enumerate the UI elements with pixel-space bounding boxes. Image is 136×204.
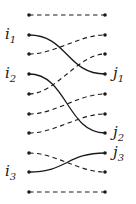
left-node-3 bbox=[27, 72, 31, 76]
left-node-9 bbox=[27, 190, 31, 194]
left-label-i2: i2 bbox=[5, 64, 16, 84]
right-node-9 bbox=[103, 190, 107, 194]
left-node-0 bbox=[27, 13, 31, 17]
right-label-j2: j2 bbox=[110, 123, 124, 143]
left-node-6 bbox=[27, 131, 31, 135]
matching-diagram: i1i2i3j1j2j3 bbox=[0, 0, 136, 204]
solid-edge-1 bbox=[29, 35, 105, 74]
solid-edge-3 bbox=[29, 74, 105, 133]
left-node-1 bbox=[27, 33, 31, 37]
solid-edge-8 bbox=[29, 153, 105, 172]
right-node-6 bbox=[103, 131, 107, 135]
right-label-j3: j3 bbox=[110, 143, 124, 163]
dashed-edge-6 bbox=[29, 114, 105, 133]
right-node-8 bbox=[103, 170, 107, 174]
right-node-4 bbox=[103, 92, 107, 96]
right-node-3 bbox=[103, 72, 107, 76]
edges bbox=[29, 15, 105, 192]
left-node-7 bbox=[27, 151, 31, 155]
left-label-i1: i1 bbox=[5, 25, 16, 45]
right-label-j1: j1 bbox=[110, 64, 124, 84]
dashed-edge-4 bbox=[29, 54, 105, 94]
right-node-0 bbox=[103, 13, 107, 17]
left-node-8 bbox=[27, 170, 31, 174]
right-node-2 bbox=[103, 52, 107, 56]
left-node-4 bbox=[27, 92, 31, 96]
left-label-i3: i3 bbox=[5, 162, 16, 182]
labels: i1i2i3j1j2j3 bbox=[5, 25, 124, 182]
right-node-5 bbox=[103, 112, 107, 116]
right-node-7 bbox=[103, 151, 107, 155]
right-node-1 bbox=[103, 33, 107, 37]
left-node-5 bbox=[27, 112, 31, 116]
left-node-2 bbox=[27, 52, 31, 56]
dashed-edge-2 bbox=[29, 35, 105, 54]
